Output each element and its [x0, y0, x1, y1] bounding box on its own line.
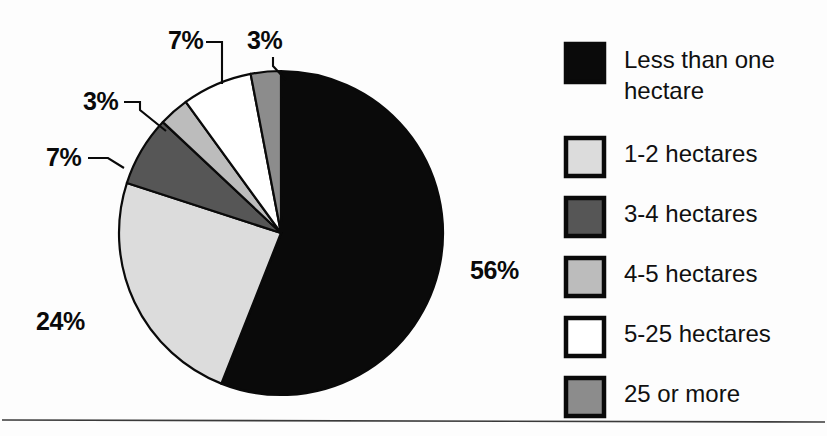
legend-label-2: 1-2 hectares	[624, 140, 757, 167]
callout-3b: 3%	[247, 26, 283, 54]
legend-swatch-5[interactable]	[566, 318, 604, 356]
legend-label-line-2: hectare	[624, 77, 704, 104]
legend-label-3: 3-4 hectares	[624, 200, 757, 227]
legend-swatch-2[interactable]	[566, 138, 604, 176]
callout-24: 24%	[36, 307, 85, 335]
legend-label-5: 5-25 hectares	[624, 320, 771, 347]
legend-swatch-3[interactable]	[566, 198, 604, 236]
callout-56: 56%	[470, 256, 519, 284]
pie-slices-group: Less than one hectare 56%1-2 hectares 24…	[119, 71, 443, 395]
legend-label-line-1: Less than one	[624, 46, 775, 73]
callout-7b: 7%	[168, 26, 204, 54]
legend-label-line-1: 25 or more	[624, 380, 740, 407]
chart-canvas: Less than one hectare 56%1-2 hectares 24…	[0, 0, 827, 436]
legend-label-line-1: 3-4 hectares	[624, 200, 757, 227]
legend-swatch-4[interactable]	[566, 258, 604, 296]
legend-swatch-1[interactable]	[566, 44, 604, 82]
legend-label-line-1: 4-5 hectares	[624, 260, 757, 287]
callout-7a: 7%	[46, 143, 82, 171]
legend-label-line-1: 1-2 hectares	[624, 140, 757, 167]
legend-label-line-1: 5-25 hectares	[624, 320, 771, 347]
legend-swatch-6[interactable]	[566, 378, 604, 416]
callout-3a: 3%	[83, 87, 119, 115]
pie-chart-figure: Less than one hectare 56%1-2 hectares 24…	[0, 0, 827, 436]
legend-label-4: 4-5 hectares	[624, 260, 757, 287]
legend-label-6: 25 or more	[624, 380, 740, 407]
